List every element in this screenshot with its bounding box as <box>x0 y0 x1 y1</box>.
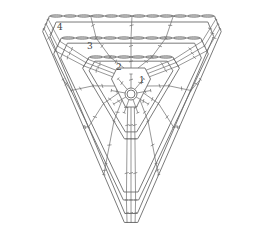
round-3-label: 3 <box>87 42 93 51</box>
round-2-label: 2 <box>116 63 122 72</box>
crochet-chart-canvas <box>0 0 263 248</box>
round-4-label: 4 <box>57 23 63 32</box>
round-1-label: 1 <box>139 76 145 85</box>
round-4-outer <box>43 16 222 222</box>
